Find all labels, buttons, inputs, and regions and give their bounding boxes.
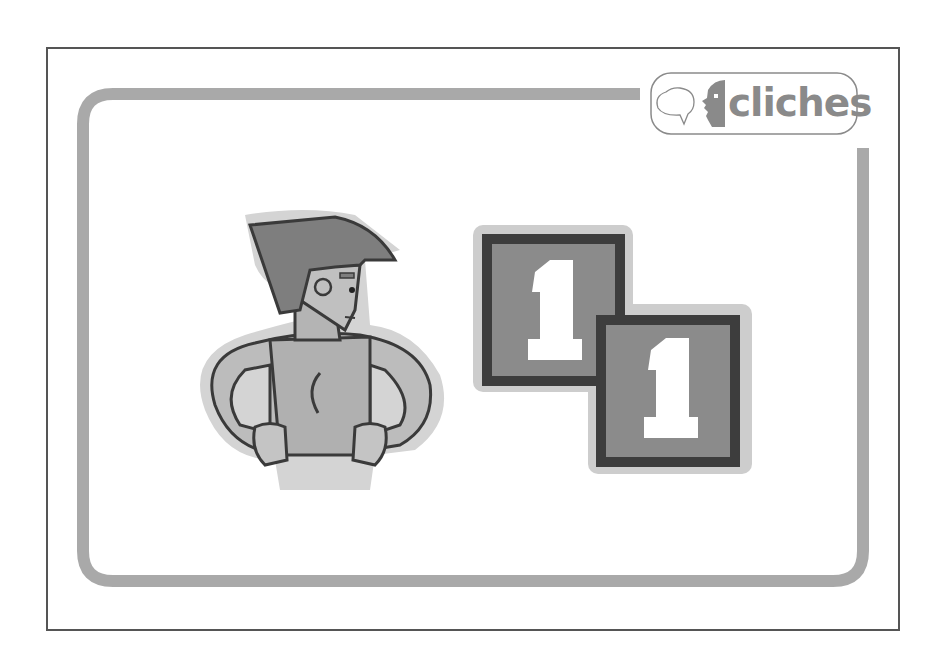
logo-text: cliches bbox=[728, 78, 871, 128]
number-one-tiles bbox=[470, 222, 755, 477]
cliches-logo: cliches bbox=[650, 72, 858, 135]
number-tile-2 bbox=[596, 315, 740, 467]
man-illustration bbox=[185, 205, 450, 495]
